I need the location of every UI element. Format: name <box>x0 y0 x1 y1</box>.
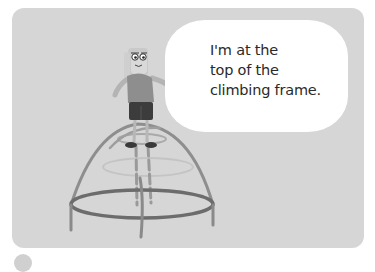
speech-line-1: I'm at the <box>210 40 350 60</box>
character <box>115 48 172 148</box>
climbing-frame <box>71 124 213 237</box>
speech-line-2: top of the <box>210 60 350 80</box>
speech-bubble-text: I'm at the top of the climbing frame. <box>210 40 350 100</box>
speech-line-3: climbing frame. <box>210 80 350 100</box>
bottom-circle-decoration <box>14 254 32 272</box>
